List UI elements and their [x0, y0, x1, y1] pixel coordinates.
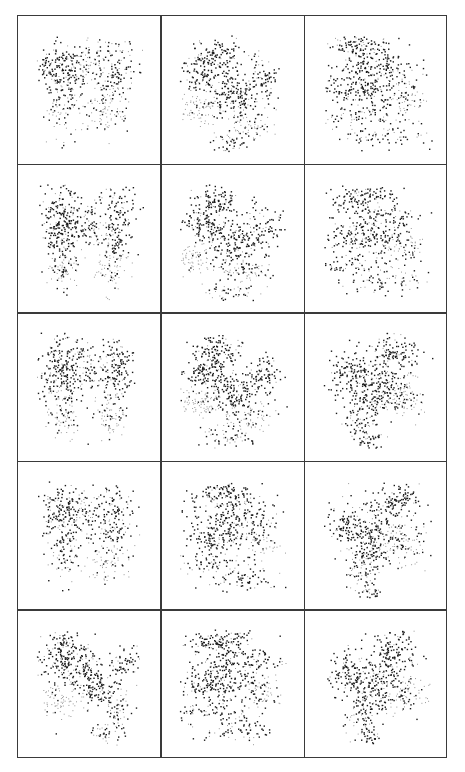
point	[379, 664, 380, 665]
point	[65, 516, 66, 517]
point	[227, 105, 228, 106]
point	[90, 675, 91, 676]
point	[238, 516, 239, 517]
point	[403, 224, 404, 225]
point	[362, 255, 363, 256]
point	[56, 417, 57, 418]
point	[223, 391, 224, 392]
point	[201, 60, 202, 61]
point	[404, 101, 405, 102]
point	[120, 346, 121, 347]
point	[206, 539, 207, 540]
point	[359, 262, 360, 263]
point	[253, 378, 254, 379]
point	[263, 517, 264, 518]
point	[349, 44, 350, 45]
point	[216, 521, 217, 522]
point	[194, 355, 195, 356]
point	[382, 676, 383, 677]
point	[228, 288, 229, 289]
point	[239, 717, 240, 718]
point	[208, 221, 209, 222]
point	[214, 544, 215, 545]
point	[370, 537, 371, 538]
point	[341, 535, 342, 536]
point	[217, 545, 218, 546]
point	[236, 379, 237, 380]
point	[113, 252, 114, 253]
point	[204, 536, 205, 537]
point	[211, 410, 212, 411]
point	[347, 208, 348, 209]
point	[395, 663, 396, 664]
point	[246, 272, 247, 273]
point	[360, 648, 361, 649]
point	[110, 395, 111, 396]
point	[46, 208, 47, 209]
point	[205, 101, 206, 102]
point	[399, 696, 400, 697]
point	[252, 386, 253, 387]
point	[198, 59, 199, 60]
point	[142, 50, 143, 51]
point	[257, 664, 258, 665]
point	[371, 723, 372, 724]
point	[369, 196, 370, 197]
point	[346, 64, 347, 65]
point	[54, 672, 55, 673]
point	[99, 506, 100, 507]
point	[238, 664, 239, 665]
point	[246, 684, 247, 685]
point	[60, 707, 61, 708]
point	[247, 275, 248, 276]
point	[67, 97, 68, 98]
point	[59, 81, 60, 82]
point	[105, 113, 106, 114]
point	[374, 209, 375, 210]
point	[117, 661, 118, 662]
point	[77, 502, 78, 503]
point	[102, 368, 103, 369]
point	[396, 686, 397, 687]
point	[103, 224, 104, 225]
point	[88, 693, 89, 694]
point	[75, 416, 76, 417]
point	[196, 359, 197, 360]
point	[222, 73, 223, 74]
point	[82, 373, 83, 374]
point	[364, 692, 365, 693]
point	[404, 407, 405, 408]
point	[357, 418, 358, 419]
point	[385, 366, 386, 367]
point	[221, 637, 222, 638]
point	[246, 397, 247, 398]
point	[238, 572, 239, 573]
point	[74, 256, 75, 257]
point	[371, 101, 372, 102]
point	[128, 559, 129, 560]
point	[366, 697, 367, 698]
point	[93, 360, 94, 361]
point	[339, 373, 340, 374]
point	[369, 510, 370, 511]
point	[404, 504, 405, 505]
point	[107, 376, 108, 377]
point	[375, 566, 376, 567]
point	[350, 415, 351, 416]
point	[375, 517, 376, 518]
point	[103, 345, 104, 346]
point	[249, 245, 250, 246]
point	[270, 93, 271, 94]
point	[68, 262, 69, 263]
point	[110, 55, 111, 56]
point	[257, 542, 258, 543]
point	[100, 378, 101, 379]
point	[101, 697, 102, 698]
point	[265, 378, 266, 379]
point	[359, 572, 360, 573]
point	[267, 381, 268, 382]
point	[65, 217, 66, 218]
dark-points	[38, 37, 141, 149]
point	[340, 390, 341, 391]
point	[209, 368, 210, 369]
